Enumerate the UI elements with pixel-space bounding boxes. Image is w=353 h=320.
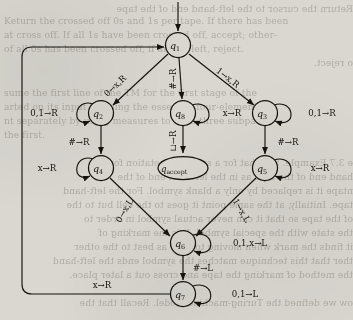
edge-label-q8-self: x→R [223,108,242,118]
edge-q5-q6 [196,178,256,236]
edge-label-q5-q6: 1→x,L [231,197,253,225]
edge-q1-q8 [179,58,182,99]
edge-label-q2-self: 0,1→R [30,108,58,118]
state-node-q1[interactable]: q1 [166,33,191,58]
edge-label-q4-q6: 0→x,L [114,197,136,225]
state-node-q5[interactable]: q5 [253,156,278,181]
state-sub-q4: 4 [99,168,103,176]
edge-label-q3-q5: #→R [278,137,299,147]
edge-label-q7-q1: x→R [93,280,112,290]
state-diagram: 0→x,R #→R 1→x,R 0,1→R #→R x→R ⊔→R 0,1→R … [0,0,353,320]
edge-label-q1-q3: 1→x,R [214,65,242,90]
edge-label-q5-self: x→R [311,163,330,173]
state-sub-q3: 3 [263,113,267,121]
state-node-qaccept[interactable]: qaccept [158,157,208,180]
scanned-page: Return the cursor to the left-hand end o… [0,0,353,320]
state-sub-q1: 1 [176,45,180,53]
state-sub-qaccept: accept [166,168,187,176]
edge-label-q3-self: 0,1→R [308,108,336,118]
state-node-q2[interactable]: q2 [89,101,114,126]
state-sub-q2: 2 [99,113,103,121]
edge-label-q1-q8: #→R [168,68,178,89]
state-node-q8[interactable]: q8 [171,101,196,126]
edge-label-q7-self: 0,1→L [232,289,259,299]
state-node-q3[interactable]: q3 [253,101,278,126]
edge-label-q6-self: 0,1,x→L [233,238,267,248]
state-sub-q7: 7 [181,294,185,302]
state-sub-q5: 5 [263,168,267,176]
state-node-q4[interactable]: q4 [89,156,114,181]
state-sub-q8: 8 [181,113,185,121]
edge-label-q2-q4: #→R [69,137,90,147]
edge-label-q8-qaccept: ⊔→R [168,130,178,151]
edge-label-q6-q7: #→L [193,263,213,273]
state-node-q6[interactable]: q6 [171,231,196,256]
state-node-q7[interactable]: q7 [171,282,196,307]
edge-label-q4-self: x→R [38,163,57,173]
edge-q4-q6 [110,178,170,236]
state-sub-q6: 6 [181,243,185,251]
edge-q1-q3 [189,54,254,105]
